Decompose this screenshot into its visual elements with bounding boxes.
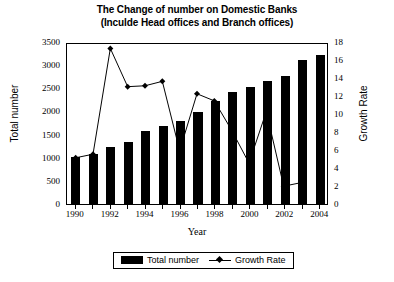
chart-title-main: The Change of number on Domestic Banks xyxy=(0,3,394,16)
growth-rate-marker-1997 xyxy=(194,91,200,97)
y-left-tick-label: 2500 xyxy=(20,84,60,93)
y-right-tick-label: 6 xyxy=(334,146,364,155)
legend-label-growth-rate: Growth Rate xyxy=(235,255,286,265)
y-left-tick-label: 3000 xyxy=(20,61,60,70)
growth-rate-marker-1998 xyxy=(211,98,217,104)
y-right-tick-label: 8 xyxy=(334,128,364,137)
y-right-tick-label: 10 xyxy=(334,110,364,119)
y-right-tick-label: 12 xyxy=(334,92,364,101)
line-series-growth-rate xyxy=(67,44,327,204)
y-left-tick-label: 2000 xyxy=(20,107,60,116)
bar-swatch-icon xyxy=(121,256,143,264)
growth-rate-marker-2000 xyxy=(246,160,252,166)
chart-title-subtitle: (Inculde Head offices and Branch offices… xyxy=(0,16,394,29)
y-left-tick-label: 500 xyxy=(20,177,60,186)
growth-rate-marker-1995 xyxy=(159,78,165,84)
growth-rate-marker-2002 xyxy=(281,183,287,189)
growth-rate-marker-1994 xyxy=(142,83,148,89)
growth-rate-line xyxy=(76,48,301,186)
y-left-tick-label: 1500 xyxy=(20,131,60,140)
growth-rate-marker-1996 xyxy=(177,148,183,154)
chart-legend: Total number Growth Rate xyxy=(113,252,294,269)
legend-item-growth-rate: Growth Rate xyxy=(209,255,286,265)
x-axis-title: Year xyxy=(0,226,394,237)
y-left-tick-label: 1000 xyxy=(20,154,60,163)
y-axis-left-title: Total number xyxy=(9,69,20,159)
chart-title: The Change of number on Domestic Banks (… xyxy=(0,3,394,29)
y-right-tick-label: 2 xyxy=(334,182,364,191)
growth-rate-marker-2003 xyxy=(298,180,304,186)
growth-rate-marker-2001 xyxy=(263,109,269,115)
y-right-tick-label: 14 xyxy=(334,74,364,83)
legend-label-total-number: Total number xyxy=(147,255,199,265)
growth-rate-marker-1993 xyxy=(125,84,131,90)
growth-rate-marker-1990 xyxy=(73,155,79,161)
growth-rate-marker-1999 xyxy=(229,127,235,133)
y-right-tick-label: 18 xyxy=(334,38,364,47)
legend-item-total-number: Total number xyxy=(121,255,199,265)
y-right-tick-label: 0 xyxy=(334,200,364,209)
x-tick-label: 2004 xyxy=(299,209,339,219)
y-right-tick-label: 16 xyxy=(334,56,364,65)
growth-rate-marker-1992 xyxy=(107,45,113,51)
y-left-tick-label: 0 xyxy=(20,200,60,209)
y-right-tick-label: 4 xyxy=(334,164,364,173)
y-left-tick-label: 3500 xyxy=(20,38,60,47)
growth-rate-marker-1991 xyxy=(90,151,96,157)
plot-area xyxy=(66,43,328,205)
chart-figure: The Change of number on Domestic Banks (… xyxy=(0,0,394,282)
line-diamond-swatch-icon xyxy=(209,256,231,264)
